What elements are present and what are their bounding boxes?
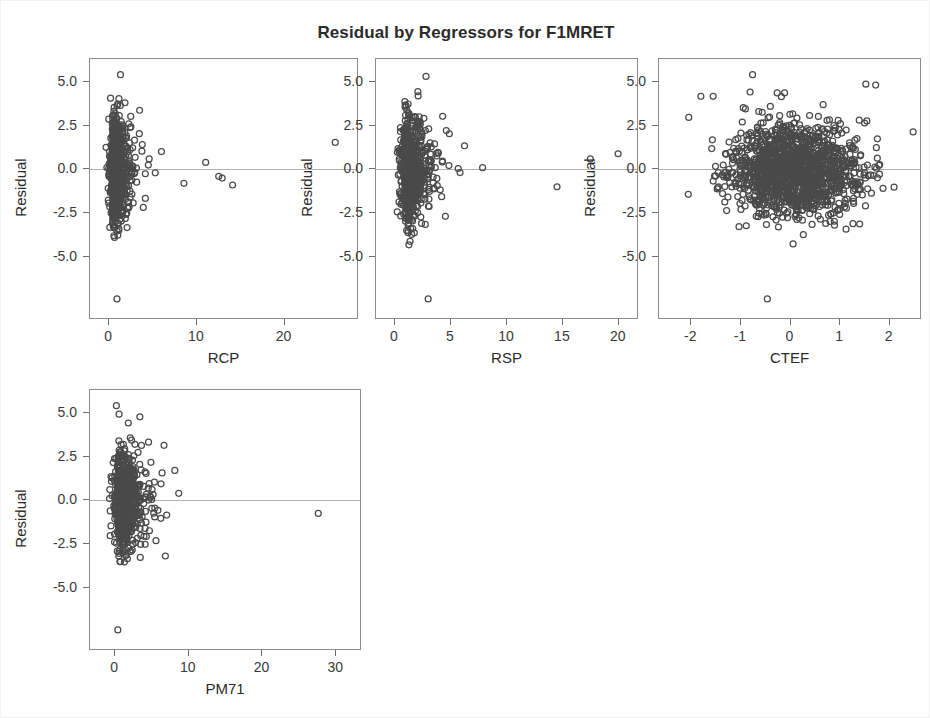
x-axis-tick-mark: [889, 319, 890, 325]
x-axis-tick-label: 0: [110, 659, 118, 675]
x-axis-tick-mark: [114, 650, 115, 656]
y-axis-tick-mark: [652, 125, 658, 126]
x-axis-tick-mark: [108, 319, 109, 325]
panel-rsp: [375, 58, 638, 319]
x-axis-tick-mark: [284, 319, 285, 325]
plot-frame: [89, 389, 361, 650]
x-axis-tick-mark: [618, 319, 619, 325]
page-title: Residual by Regressors for F1MRET: [1, 23, 930, 43]
panel-rcp: [89, 58, 358, 319]
scatter-points: [90, 59, 357, 318]
y-axis-tick-label: 5.0: [596, 73, 646, 89]
y-axis-tick-label: 5.0: [27, 404, 77, 420]
x-axis-tick-mark: [394, 319, 395, 325]
y-axis-tick-label: 0.0: [596, 160, 646, 176]
x-axis-title: CTEF: [658, 349, 921, 366]
x-axis-title: RSP: [375, 349, 638, 366]
x-axis-tick-mark: [790, 319, 791, 325]
x-axis-tick-mark: [188, 650, 189, 656]
y-axis-tick-label: 0.0: [27, 160, 77, 176]
y-axis-tick-label: -5.0: [313, 248, 363, 264]
y-axis-tick-mark: [83, 543, 89, 544]
x-axis-tick-mark: [335, 650, 336, 656]
y-axis-tick-mark: [83, 256, 89, 257]
plot-frame: [375, 58, 638, 319]
y-axis-tick-mark: [83, 125, 89, 126]
y-axis-tick-label: -2.5: [313, 204, 363, 220]
x-axis-tick-label: 20: [610, 328, 626, 344]
y-axis-tick-label: 2.5: [27, 117, 77, 133]
x-axis-tick-mark: [562, 319, 563, 325]
x-axis-tick-mark: [506, 319, 507, 325]
plot-frame: [89, 58, 358, 319]
x-axis-tick-label: -2: [684, 328, 696, 344]
y-axis-tick-mark: [652, 168, 658, 169]
y-axis-title: Residual: [12, 57, 29, 318]
y-axis-tick-mark: [652, 256, 658, 257]
y-axis-tick-label: -2.5: [27, 535, 77, 551]
x-axis-tick-label: 0: [390, 328, 398, 344]
y-axis-tick-label: 0.0: [313, 160, 363, 176]
x-axis-tick-label: 10: [498, 328, 514, 344]
y-axis-tick-mark: [83, 168, 89, 169]
y-axis-tick-mark: [83, 81, 89, 82]
y-axis-tick-mark: [369, 212, 375, 213]
x-axis-tick-label: 10: [188, 328, 204, 344]
y-axis-tick-mark: [83, 587, 89, 588]
x-axis-tick-label: 10: [180, 659, 196, 675]
y-axis-tick-label: -5.0: [596, 248, 646, 264]
y-axis-tick-mark: [369, 256, 375, 257]
x-axis-tick-label: 20: [276, 328, 292, 344]
x-axis-title: PM71: [89, 680, 361, 697]
y-axis-title: Residual: [581, 57, 598, 318]
y-axis-tick-label: 0.0: [27, 491, 77, 507]
x-axis-tick-label: 5: [446, 328, 454, 344]
x-axis-tick-label: 20: [254, 659, 270, 675]
scatter-points: [659, 59, 920, 318]
y-axis-tick-mark: [369, 168, 375, 169]
x-axis-tick-mark: [450, 319, 451, 325]
y-axis-tick-mark: [83, 212, 89, 213]
y-axis-tick-label: -2.5: [27, 204, 77, 220]
y-axis-tick-label: 2.5: [596, 117, 646, 133]
y-axis-tick-mark: [83, 412, 89, 413]
x-axis-tick-mark: [740, 319, 741, 325]
y-axis-tick-mark: [83, 499, 89, 500]
y-axis-title: Residual: [12, 388, 29, 649]
y-axis-tick-mark: [652, 81, 658, 82]
y-axis-tick-mark: [83, 456, 89, 457]
x-axis-tick-mark: [690, 319, 691, 325]
y-axis-tick-mark: [652, 212, 658, 213]
residual-plot-page: Residual by Regressors for F1MRET 5.02.5…: [0, 0, 930, 718]
x-axis-tick-label: 2: [885, 328, 893, 344]
x-axis-tick-label: 1: [835, 328, 843, 344]
x-axis-tick-mark: [839, 319, 840, 325]
x-axis-tick-mark: [196, 319, 197, 325]
plot-frame: [658, 58, 921, 319]
x-axis-tick-label: -1: [734, 328, 746, 344]
y-axis-tick-label: -5.0: [27, 579, 77, 595]
y-axis-tick-label: -2.5: [596, 204, 646, 220]
x-axis-tick-mark: [261, 650, 262, 656]
x-axis-tick-label: 0: [104, 328, 112, 344]
y-axis-title: Residual: [298, 57, 315, 318]
y-axis-tick-label: 2.5: [313, 117, 363, 133]
x-axis-title: RCP: [89, 349, 358, 366]
y-axis-tick-mark: [369, 81, 375, 82]
x-axis-tick-label: 30: [327, 659, 343, 675]
panel-ctef: [658, 58, 921, 319]
y-axis-tick-label: 5.0: [313, 73, 363, 89]
x-axis-tick-label: 15: [554, 328, 570, 344]
y-axis-tick-label: 5.0: [27, 73, 77, 89]
panel-pm71: [89, 389, 361, 650]
y-axis-tick-label: -5.0: [27, 248, 77, 264]
y-axis-tick-mark: [369, 125, 375, 126]
y-axis-tick-label: 2.5: [27, 448, 77, 464]
x-axis-tick-label: 0: [786, 328, 794, 344]
scatter-points: [90, 390, 360, 649]
